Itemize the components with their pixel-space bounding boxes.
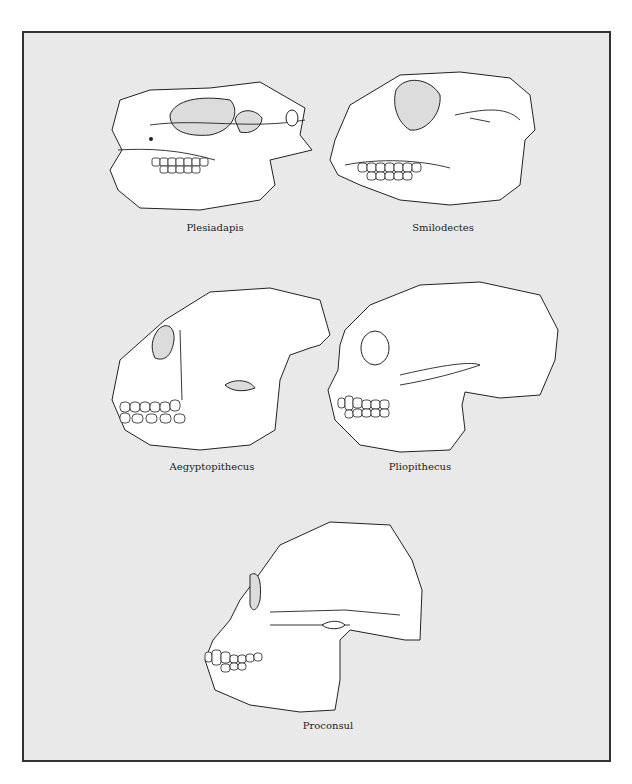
skull-proconsul-drawing: [0, 0, 632, 784]
caption-proconsul: Proconsul: [303, 720, 353, 731]
